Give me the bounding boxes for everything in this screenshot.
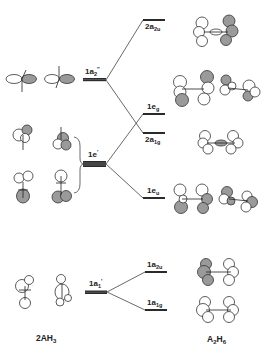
label-1eu: 1eu <box>147 187 159 197</box>
fragment-orbital-ep-4 <box>52 170 72 203</box>
label-1a1p: 1a1′ <box>89 279 102 290</box>
correlation-lines <box>106 20 145 310</box>
fragment-orbital-a1p-1 <box>16 276 34 309</box>
label-2a1g: 2a1g <box>145 136 160 146</box>
molecule-orbital-1a1g <box>197 297 239 323</box>
molecule-orbital-1eu-b <box>219 187 258 213</box>
label-1ep: 1e′ <box>88 150 98 159</box>
label-2a2u: 2a2u <box>145 23 160 33</box>
label-1eg: 1eg <box>147 103 159 113</box>
fragment-orbital-ep-1 <box>13 125 32 150</box>
molecule-orbital-1eg-b <box>220 75 260 101</box>
molecule-orbital-1eg-a <box>174 71 215 107</box>
mo-diagram-canvas: .ln { stroke: #444; stroke-width: 0.8; f… <box>0 0 270 352</box>
fragment-orbital-ep-3 <box>14 171 33 203</box>
molecule-orbital-2a1g <box>198 131 243 155</box>
fragment-orbital-a1p-2 <box>55 275 72 307</box>
fragment-orbital-a2pp-1 <box>6 70 37 92</box>
fragment-level-1a1p <box>85 291 107 295</box>
label-1a1g: 1a1g <box>147 299 162 309</box>
molecule-orbital-1a2u <box>198 259 239 286</box>
molecule-orbital-2a2u <box>194 15 239 47</box>
fragment-level-1ep <box>83 161 106 167</box>
label-right-molecule: A2H6 <box>207 334 226 345</box>
label-1a2u: 1a2u <box>147 261 162 271</box>
label-left-fragment: 2AH3 <box>36 333 56 344</box>
mo-diagram: .ln { stroke: #444; stroke-width: 0.8; f… <box>0 0 270 352</box>
fragment-orbital-ep-2 <box>53 127 71 150</box>
fragment-orbital-a2pp-2 <box>45 66 75 88</box>
label-1a2pp: 1a2″ <box>85 67 100 78</box>
fragment-level-1a2pp <box>83 78 106 81</box>
brace <box>74 137 84 193</box>
molecule-orbital-1eu-a <box>174 184 213 214</box>
